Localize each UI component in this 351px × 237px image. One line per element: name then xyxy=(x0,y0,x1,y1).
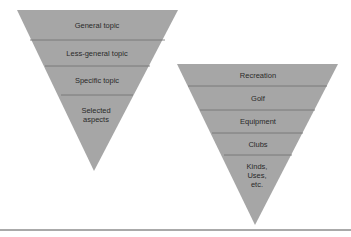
left-funnel-shape xyxy=(17,10,178,171)
left-level-2-label: Less-general topic xyxy=(66,49,127,58)
funnel-diagram xyxy=(0,0,351,237)
right-level-5-label: Kinds, Uses, etc. xyxy=(247,162,268,189)
left-level-3-label: Specific topic xyxy=(75,76,119,85)
left-level-1-label: General topic xyxy=(75,21,120,30)
left-funnel xyxy=(17,10,178,171)
right-level-3-label: Equipment xyxy=(240,117,276,126)
right-level-4-label: Clubs xyxy=(248,140,267,149)
left-level-4-label: Selected aspects xyxy=(81,106,110,124)
right-level-2-label: Golf xyxy=(251,94,265,103)
right-level-1-label: Recreation xyxy=(240,71,276,80)
